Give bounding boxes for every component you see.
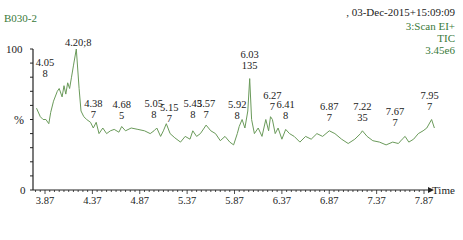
peak-scan-number: 7 (320, 112, 338, 123)
peak-scan-number: 135 (240, 60, 258, 71)
peak-scan-number: 35 (353, 112, 371, 123)
peak-label: 5.928 (228, 99, 246, 121)
x-tick-label: 6.37 (273, 195, 291, 206)
peak-label: 6.418 (276, 99, 294, 121)
peak-retention-time: 6.03 (240, 49, 258, 60)
peak-scan-number: 7 (197, 109, 215, 120)
peak-label: 4.058 (36, 57, 54, 79)
peak-label: 4.387 (84, 98, 102, 120)
peak-scan-number: 8 (228, 110, 246, 121)
peak-scan-number: 8 (276, 110, 294, 121)
peak-retention-time: 5.15 (160, 102, 178, 113)
peak-label: 4.20;8 (65, 37, 92, 48)
peak-scan-number: 7 (386, 117, 404, 128)
peak-retention-time: 7.22 (353, 101, 371, 112)
x-tick-label: 7.87 (415, 195, 433, 206)
peak-retention-time: 4.20;8 (65, 37, 92, 48)
peak-scan-number: 7 (84, 109, 102, 120)
x-tick-label: 5.87 (225, 195, 243, 206)
peak-scan-number: 7 (160, 113, 178, 124)
x-tick-label: 4.87 (131, 195, 149, 206)
peak-retention-time: 4.68 (113, 99, 131, 110)
peak-retention-time: 4.05 (36, 57, 54, 68)
peak-scan-number: 5 (113, 110, 131, 121)
x-tick-label: 6.87 (320, 195, 338, 206)
peak-label: 7.2235 (353, 101, 371, 123)
peak-label: 6.03135 (240, 49, 258, 71)
peak-label: 7.677 (386, 106, 404, 128)
peak-scan-number: 7 (420, 101, 438, 112)
peak-retention-time: 4.38 (84, 98, 102, 109)
peak-label: 6.877 (320, 101, 338, 123)
peak-label: 4.685 (113, 99, 131, 121)
peak-retention-time: 6.87 (320, 101, 338, 112)
peak-retention-time: 6.41 (276, 99, 294, 110)
peak-label: 5.577 (197, 98, 215, 120)
peak-retention-time: 7.95 (420, 90, 438, 101)
tic-trace (37, 49, 435, 145)
peak-retention-time: 5.92 (228, 99, 246, 110)
peak-retention-time: 5.57 (197, 98, 215, 109)
peak-scan-number: 8 (36, 68, 54, 79)
x-tick-label: 5.37 (178, 195, 196, 206)
x-tick-label: 7.37 (367, 195, 385, 206)
plot-axes (30, 49, 434, 194)
x-tick-label: 4.37 (83, 195, 101, 206)
peak-label: 5.157 (160, 102, 178, 124)
peak-label: 7.957 (420, 90, 438, 112)
peak-retention-time: 7.67 (386, 106, 404, 117)
x-tick-label: 3.87 (36, 195, 54, 206)
